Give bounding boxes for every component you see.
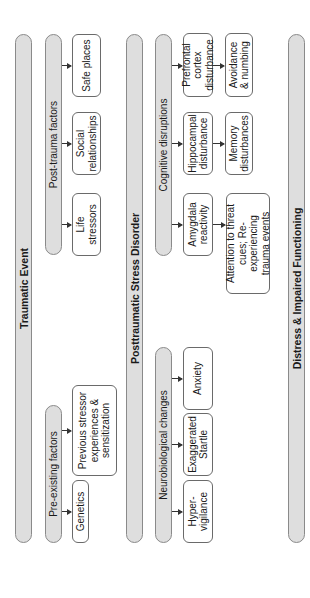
arrow-icon [172, 143, 182, 144]
genetics-box: Genetics [72, 480, 89, 543]
safe-places-box: Safe places [72, 34, 101, 97]
arrow-icon [172, 378, 182, 379]
previous-stressor-box: Previous stressor experiences & sensitiz… [72, 385, 117, 476]
anxiety-label: Anxiety [192, 362, 204, 395]
memory-disturbances-box: Memory disturbances [225, 112, 253, 175]
arrow-icon [213, 224, 225, 225]
hypervigilance-box: Hyper- vigilance [183, 480, 213, 543]
neurobiological-changes-bar: Neurobiological changes [155, 347, 172, 543]
hippocampal-disturbance-label: Hippocampal disturbance [187, 114, 210, 172]
arrow-icon [62, 511, 71, 512]
pre-existing-factors-label: Pre-existing factors [48, 431, 59, 517]
safe-places-label: Safe places [81, 39, 93, 91]
life-stressors-label: Life stressors [75, 197, 98, 252]
prefrontal-cortex-box: Prefrontal cortex disturbance [183, 33, 213, 97]
life-stressors-box: Life stressors [72, 193, 101, 256]
cognitive-disruptions-bar: Cognitive disruptions [155, 34, 172, 256]
memory-disturbances-label: Memory disturbances [228, 115, 251, 172]
attention-to-threat-box: Attention to threat cues; Re-experiencin… [226, 193, 270, 294]
avoidance-numbing-label: Avoidance & numbing [228, 41, 251, 89]
arrow-icon [172, 224, 182, 225]
distress-label: Distress & Impaired Functioning [291, 208, 303, 370]
exaggerated-startle-label: Exaggerated Startle [187, 416, 210, 473]
prefrontal-cortex-label: Prefrontal cortex disturbance [181, 37, 216, 93]
traumatic-event-bar: Traumatic Event [15, 34, 32, 543]
arrow-icon [62, 224, 71, 225]
arrow-icon [172, 511, 182, 512]
ptsd-label: Posttraumatic Stress Disorder [129, 213, 141, 364]
genetics-label: Genetics [75, 492, 87, 531]
traumatic-event-label: Traumatic Event [18, 248, 30, 329]
previous-stressor-label: Previous stressor experiences & sensitiz… [77, 392, 112, 469]
arrow-icon [62, 65, 71, 66]
ptsd-diagram: Traumatic Event Posttraumatic Stress Dis… [0, 0, 310, 598]
amygdala-reactivity-box: Amygdala reactivity [183, 193, 213, 256]
amygdala-reactivity-label: Amygdala reactivity [187, 202, 210, 246]
hippocampal-disturbance-box: Hippocampal disturbance [183, 112, 213, 175]
exaggerated-startle-box: Exaggerated Startle [183, 413, 213, 476]
post-trauma-factors-bar: Post-trauma factors [45, 34, 62, 255]
cognitive-disruptions-label: Cognitive disruptions [158, 99, 169, 192]
arrow-icon [172, 444, 182, 445]
arrow-icon [62, 143, 71, 144]
anxiety-box: Anxiety [183, 347, 213, 410]
pre-existing-factors-bar: Pre-existing factors [45, 405, 62, 543]
post-trauma-factors-label: Post-trauma factors [48, 101, 59, 188]
avoidance-numbing-box: Avoidance & numbing [225, 33, 253, 97]
ptsd-bar: Posttraumatic Stress Disorder [126, 34, 143, 543]
distress-bar: Distress & Impaired Functioning [288, 34, 305, 543]
social-relationships-box: Social relationships [72, 112, 101, 175]
social-relationships-label: Social relationships [75, 115, 98, 171]
attention-to-threat-label: Attention to threat cues; Re-experiencin… [225, 197, 271, 290]
neurobiological-changes-label: Neurobiological changes [158, 390, 169, 500]
hypervigilance-label: Hyper- vigilance [187, 492, 210, 531]
arrow-icon [62, 430, 71, 431]
arrow-icon [213, 143, 224, 144]
